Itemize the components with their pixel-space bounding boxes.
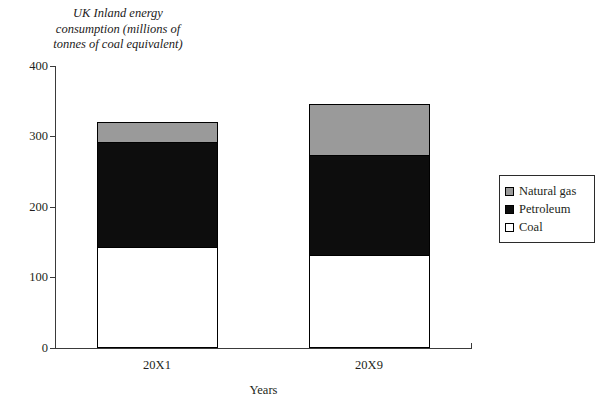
y-tick-label-200: 200 bbox=[8, 201, 48, 214]
y-tick-label-100: 100 bbox=[8, 271, 48, 284]
petroleum-swatch-icon bbox=[505, 205, 514, 214]
coal-swatch-icon bbox=[505, 223, 514, 232]
y-tick-label-0: 0 bbox=[8, 342, 48, 355]
bar-20X1-segment-coal[interactable] bbox=[97, 247, 218, 348]
legend-item-petroleum[interactable]: Petroleum bbox=[505, 200, 590, 218]
natural-gas-swatch-icon bbox=[505, 187, 514, 196]
legend-item-natural-gas[interactable]: Natural gas bbox=[505, 182, 590, 200]
y-tick-100 bbox=[50, 277, 56, 278]
legend-label-natural-gas: Natural gas bbox=[519, 185, 576, 198]
bar-20X9-segment-petroleum[interactable] bbox=[309, 155, 430, 256]
y-tick-label-400: 400 bbox=[8, 60, 48, 73]
chart-legend: Natural gas Petroleum Coal bbox=[499, 175, 595, 243]
y-tick-300 bbox=[50, 136, 56, 137]
x-category-label-20X9: 20X9 bbox=[309, 358, 429, 372]
bar-20X1-segment-petroleum[interactable] bbox=[97, 142, 218, 248]
y-tick-400 bbox=[50, 66, 56, 67]
y-tick-0 bbox=[50, 348, 56, 349]
y-tick-label-300: 300 bbox=[8, 130, 48, 143]
chart-title: UK Inland energy consumption (millions o… bbox=[18, 6, 218, 53]
x-category-label-20X1: 20X1 bbox=[97, 358, 217, 372]
legend-item-coal[interactable]: Coal bbox=[505, 218, 590, 236]
x-axis-line bbox=[55, 348, 472, 349]
x-axis-title: Years bbox=[55, 383, 472, 397]
bar-20X9[interactable] bbox=[309, 104, 430, 348]
bar-20X9-segment-natural-gas[interactable] bbox=[309, 104, 430, 156]
legend-label-petroleum: Petroleum bbox=[519, 203, 570, 216]
bar-20X1[interactable] bbox=[97, 122, 218, 348]
legend-label-coal: Coal bbox=[519, 221, 543, 234]
stacked-bar-chart: UK Inland energy consumption (millions o… bbox=[0, 0, 598, 404]
x-axis-end-tick bbox=[471, 343, 472, 349]
bar-20X1-segment-natural-gas[interactable] bbox=[97, 122, 218, 143]
y-tick-200 bbox=[50, 207, 56, 208]
bar-20X9-segment-coal[interactable] bbox=[309, 255, 430, 348]
